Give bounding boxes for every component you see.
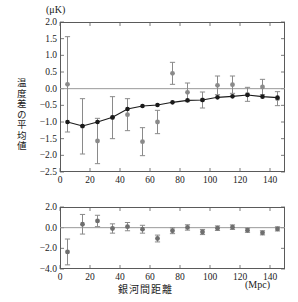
series-residual <box>65 214 280 264</box>
y-tick-label: 2.0 <box>23 17 57 27</box>
data-point <box>65 250 70 255</box>
data-point <box>215 83 220 88</box>
top-panel-canvas <box>60 22 285 172</box>
y-tick-label: −2.0 <box>23 150 57 160</box>
data-point <box>155 120 160 125</box>
data-point <box>140 227 145 232</box>
y-tick-label: 1.5 <box>23 34 57 44</box>
data-point <box>80 222 85 227</box>
x-axis-label: 銀河間距離 <box>118 281 173 296</box>
data-point <box>95 219 100 224</box>
x-tick-label: 20 <box>85 175 95 185</box>
data-point <box>230 94 235 99</box>
data-point <box>65 120 70 125</box>
data-point <box>200 98 205 103</box>
y-tick-label: 2.0 <box>23 202 57 212</box>
data-point <box>125 107 130 112</box>
x-tick-label: 80 <box>175 175 185 185</box>
x-tick-label: 40 <box>115 175 125 185</box>
data-point <box>140 104 145 109</box>
y-tick-label: −1.0 <box>23 117 57 127</box>
top-panel-unit-label: (μK) <box>46 4 65 15</box>
y-tick-label: 0.5 <box>23 67 57 77</box>
figure-container: (μK) 温度差の平均値 2.01.51.00.50.0−0.5−1.0−1.5… <box>0 0 298 302</box>
x-tick-label: 120 <box>233 175 247 185</box>
data-point <box>260 94 265 99</box>
y-tick-label: 0.0 <box>23 84 57 94</box>
data-point <box>245 228 250 233</box>
x-tick-label: 60 <box>145 175 155 185</box>
data-point <box>245 93 250 98</box>
data-point <box>275 95 280 100</box>
data-point <box>170 71 175 76</box>
data-point <box>170 100 175 105</box>
data-point <box>95 139 100 144</box>
data-point <box>260 85 265 90</box>
data-point <box>185 225 190 230</box>
data-point <box>230 82 235 87</box>
data-point <box>215 226 220 231</box>
x-tick-label: 80 <box>175 272 185 282</box>
data-point <box>215 95 220 100</box>
y-tick-label: −4.0 <box>23 264 57 274</box>
data-point <box>65 82 70 87</box>
data-point <box>275 227 280 232</box>
data-point <box>125 224 130 229</box>
data-point <box>110 226 115 231</box>
data-point <box>185 98 190 103</box>
bottom-panel-canvas <box>60 207 285 269</box>
x-tick-label: 0 <box>58 175 63 185</box>
x-tick-label: 140 <box>263 175 277 185</box>
data-point <box>170 228 175 233</box>
y-tick-label: −0.5 <box>23 100 57 110</box>
data-point <box>140 139 145 144</box>
x-tick-label: 20 <box>85 272 95 282</box>
data-point <box>110 115 115 120</box>
y-tick-label: −2.5 <box>23 167 57 177</box>
data-point <box>230 225 235 230</box>
data-point <box>125 112 130 117</box>
x-tick-label: 100 <box>203 175 217 185</box>
data-point <box>80 124 85 129</box>
data-point <box>155 103 160 108</box>
x-tick-label: 100 <box>203 272 217 282</box>
data-point <box>185 90 190 95</box>
y-tick-label: 1.0 <box>23 50 57 60</box>
bottom-panel-plot: 2.00.0−2.0−4.0020406080100120140 <box>60 207 285 269</box>
data-point <box>260 230 265 235</box>
data-point <box>200 230 205 235</box>
data-point <box>95 120 100 125</box>
top-panel-plot: 2.01.51.00.50.0−0.5−1.0−1.5−2.0−2.502040… <box>60 22 285 172</box>
y-tick-label: −2.0 <box>23 243 57 253</box>
data-point <box>155 236 160 241</box>
y-tick-label: 0.0 <box>23 223 57 233</box>
x-tick-label: 0 <box>58 272 63 282</box>
x-axis-unit-label: (Mpc) <box>245 279 270 290</box>
y-tick-label: −1.5 <box>23 134 57 144</box>
